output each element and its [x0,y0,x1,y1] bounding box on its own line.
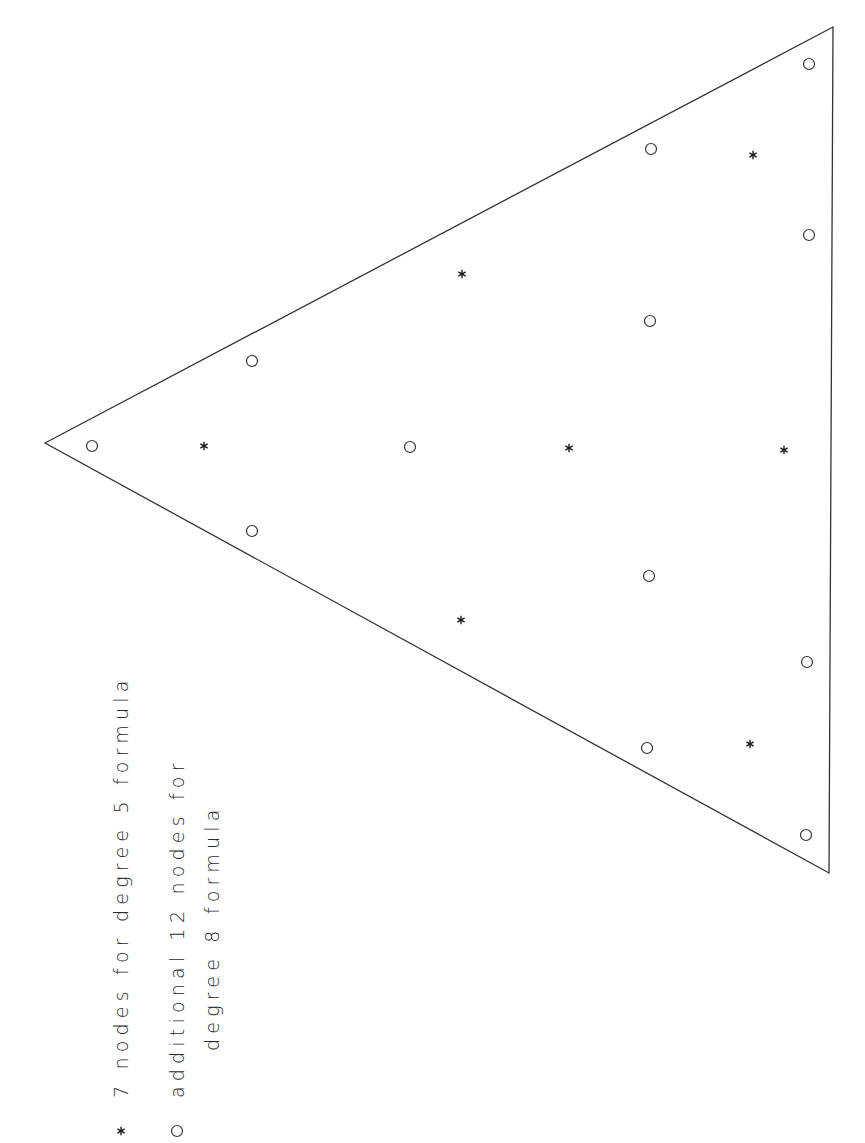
circle-node-icon [405,442,416,453]
legend-item-degree8: additional 12 nodes for degree 8 formula [166,758,223,1136]
star-node-icon [746,740,753,748]
legend-label-degree5: 7 nodes for degree 5 formula [110,675,132,1098]
circle-node-icon [644,571,655,582]
legend-item-degree5: 7 nodes for degree 5 formula [110,675,132,1135]
circle-icon [172,1126,183,1137]
circle-node-icon [247,356,258,367]
degree5-star-nodes [200,151,787,748]
star-node-icon [565,444,572,452]
circle-node-icon [804,230,815,241]
star-icon [117,1127,124,1135]
circle-node-icon [801,830,812,841]
circle-node-icon [645,316,656,327]
circle-node-icon [87,441,98,452]
circle-node-icon [646,144,657,155]
star-node-icon [780,446,787,454]
star-node-icon [749,151,756,159]
circle-node-icon [247,526,258,537]
circle-node-icon [642,743,653,754]
legend-label-degree8-line1: additional 12 nodes for [166,758,188,1098]
degree8-circle-nodes [87,59,815,841]
triangle-domain [45,27,833,873]
star-node-icon [200,442,207,450]
legend-label-degree8-line2: degree 8 formula [201,804,223,1051]
legend: 7 nodes for degree 5 formula additional … [110,675,223,1136]
quadrature-diagram: 7 nodes for degree 5 formula additional … [0,0,865,1143]
circle-node-icon [802,657,813,668]
star-node-icon [458,270,465,278]
circle-node-icon [804,59,815,70]
star-node-icon [457,616,464,624]
